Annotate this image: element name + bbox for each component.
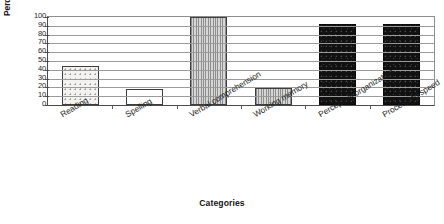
y-axis-tick-label: 80	[24, 30, 46, 38]
y-axis-tick-label: 70	[24, 38, 46, 46]
y-axis-tick-label: 0	[24, 100, 46, 108]
y-axis-tick-label: 30	[24, 74, 46, 82]
y-axis-tick-label: 10	[24, 91, 46, 99]
y-axis-title: Percentile score	[1, 0, 14, 32]
y-axis-tickmark	[45, 61, 49, 62]
gridline	[48, 26, 434, 27]
y-axis-tickmark	[45, 105, 49, 106]
y-axis-tick-label: 50	[24, 56, 46, 64]
y-axis-tick-labels: 1009080706050403020100	[24, 10, 46, 114]
x-axis-tickmark	[305, 105, 306, 109]
y-axis-tickmark	[45, 87, 49, 88]
y-axis-tickmark	[45, 79, 49, 80]
y-axis-tickmark	[45, 26, 49, 27]
gridline	[48, 43, 434, 44]
gridline	[48, 70, 434, 71]
x-axis-tickmark	[370, 105, 371, 109]
gridline	[48, 61, 434, 62]
y-axis-tickmark	[45, 17, 49, 18]
x-axis-tickmark	[112, 105, 113, 109]
y-axis-tickmark	[45, 35, 49, 36]
gridline	[48, 96, 434, 97]
y-axis-tickmark	[45, 70, 49, 71]
y-axis-tick-label: 40	[24, 65, 46, 73]
x-axis-title: Categories	[0, 198, 444, 208]
gridline	[48, 52, 434, 53]
bar-chart: Percentile score 1009080706050403020100 …	[0, 0, 444, 224]
x-axis-tickmark	[241, 105, 242, 109]
y-axis-tickmark	[45, 52, 49, 53]
plot-area	[47, 16, 435, 106]
y-axis-tick-label: 100	[24, 12, 46, 20]
y-axis-tick-label: 60	[24, 47, 46, 55]
y-axis-tickmark	[45, 43, 49, 44]
x-axis-tickmark	[177, 105, 178, 109]
y-axis-tickmark	[45, 96, 49, 97]
gridline	[48, 35, 434, 36]
y-axis-tick-label: 90	[24, 21, 46, 29]
y-axis-tick-label: 20	[24, 82, 46, 90]
